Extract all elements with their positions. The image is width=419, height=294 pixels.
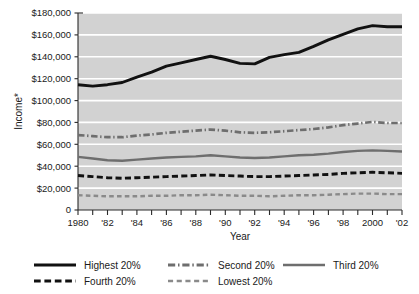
y-tick-label: $40,000 [37, 161, 71, 172]
x-tick-label: '02 [396, 217, 408, 228]
y-tick-label: $20,000 [37, 183, 71, 194]
y-axis-title: Income* [13, 93, 24, 130]
legend-label-highest-20: Highest 20% [84, 260, 141, 271]
x-tick-label: '84 [131, 217, 143, 228]
legend-label-second-20: Second 20% [218, 260, 275, 271]
x-axis-ticks: 1980'82'84'86'88'90'92'94'96'982000'02 [67, 210, 408, 228]
y-tick-label: $80,000 [37, 117, 71, 128]
y-tick-label: 0 [66, 204, 71, 215]
y-tick-label: $60,000 [37, 139, 71, 150]
x-tick-label: '92 [249, 217, 261, 228]
legend-label-lowest-20: Lowest 20% [218, 276, 273, 287]
legend-label-fourth-20: Fourth 20% [84, 276, 136, 287]
y-tick-label: $140,000 [31, 51, 71, 62]
income-quintile-line-chart: $180,000$160,000$140,000$120,000$100,000… [0, 0, 419, 294]
x-tick-label: '88 [190, 217, 202, 228]
y-axis-ticks: $180,000$160,000$140,000$120,000$100,000… [31, 7, 78, 215]
x-tick-label: 2000 [362, 217, 383, 228]
x-tick-label: '86 [160, 217, 172, 228]
x-tick-label: '98 [337, 217, 349, 228]
chart-legend: Highest 20%Second 20%Third 20%Fourth 20%… [34, 260, 379, 287]
x-tick-label: '82 [101, 217, 113, 228]
y-tick-label: $100,000 [31, 95, 71, 106]
chart-canvas: $180,000$160,000$140,000$120,000$100,000… [0, 0, 419, 294]
x-tick-label: '94 [278, 217, 290, 228]
plot-background [78, 13, 402, 210]
x-tick-label: '96 [307, 217, 319, 228]
x-axis-title: Year [230, 231, 251, 242]
x-tick-label: '90 [219, 217, 231, 228]
y-tick-label: $160,000 [31, 29, 71, 40]
legend-label-third-20: Third 20% [333, 260, 379, 271]
y-tick-label: $180,000 [31, 7, 71, 18]
x-tick-label: 1980 [67, 217, 88, 228]
y-tick-label: $120,000 [31, 73, 71, 84]
